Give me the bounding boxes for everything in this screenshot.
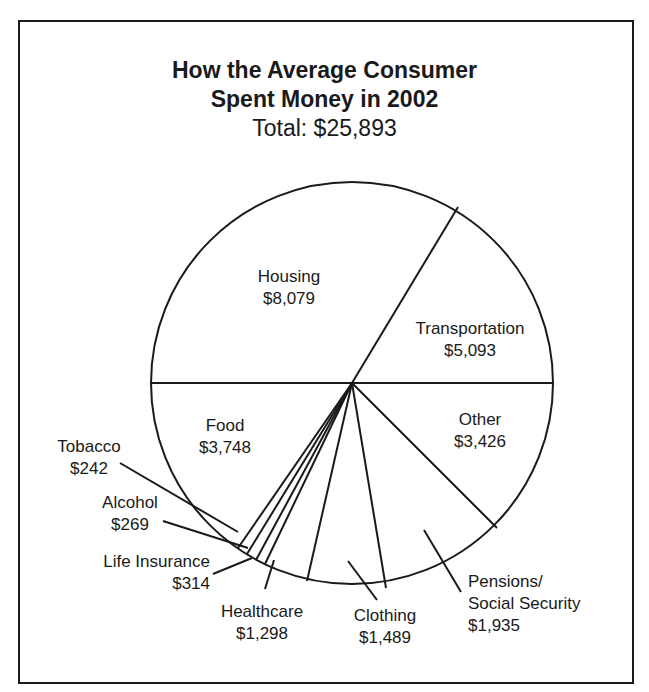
- label-housing-value: $8,079: [224, 288, 354, 310]
- label-alcohol: Alcohol $269: [90, 492, 170, 536]
- label-tobacco-name: Tobacco: [44, 436, 134, 458]
- label-alcohol-value: $269: [90, 514, 170, 536]
- label-clothing-name: Clothing: [335, 605, 435, 627]
- label-pensions-name2: Social Security: [468, 593, 628, 615]
- label-tobacco-value: $242: [44, 458, 134, 480]
- label-healthcare-value: $1,298: [207, 623, 317, 645]
- label-life-insurance-name: Life Insurance: [60, 551, 210, 573]
- label-other-name: Other: [430, 409, 530, 431]
- label-food-value: $3,748: [180, 437, 270, 459]
- label-healthcare-name: Healthcare: [207, 601, 317, 623]
- label-food: Food $3,748: [180, 415, 270, 459]
- label-tobacco: Tobacco $242: [44, 436, 134, 480]
- label-life-insurance: Life Insurance $314: [60, 551, 210, 595]
- label-other-value: $3,426: [430, 431, 530, 453]
- label-clothing: Clothing $1,489: [335, 605, 435, 649]
- label-healthcare: Healthcare $1,298: [207, 601, 317, 645]
- label-clothing-value: $1,489: [335, 627, 435, 649]
- label-life-insurance-value: $314: [60, 573, 210, 595]
- label-pensions: Pensions/ Social Security $1,935: [468, 571, 628, 637]
- label-other: Other $3,426: [430, 409, 530, 453]
- label-food-name: Food: [180, 415, 270, 437]
- label-alcohol-name: Alcohol: [90, 492, 170, 514]
- label-transportation: Transportation $5,093: [400, 318, 540, 362]
- label-pensions-value: $1,935: [468, 615, 628, 637]
- label-housing: Housing $8,079: [224, 266, 354, 310]
- label-transportation-name: Transportation: [400, 318, 540, 340]
- label-transportation-value: $5,093: [400, 340, 540, 362]
- leader-life-insurance: [213, 558, 252, 574]
- label-pensions-name1: Pensions/: [468, 571, 628, 593]
- label-housing-name: Housing: [224, 266, 354, 288]
